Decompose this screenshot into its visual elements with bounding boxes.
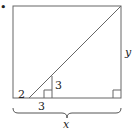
diagonal-line — [29, 6, 121, 98]
label-vertical-height: 3 — [55, 79, 62, 92]
label-left-segment: 2 — [18, 88, 25, 101]
geometry-diagram: • 2 3 3 y x — [0, 0, 135, 134]
problem-marker: • — [0, 1, 7, 14]
outer-rectangle — [13, 6, 121, 98]
right-angle-mark-corner — [113, 90, 121, 98]
label-bottom-segment: 3 — [38, 100, 45, 113]
label-total-width: x — [63, 118, 70, 131]
right-angle-mark-inner — [44, 90, 52, 98]
width-brace — [13, 108, 121, 118]
label-right-side: y — [124, 46, 132, 59]
